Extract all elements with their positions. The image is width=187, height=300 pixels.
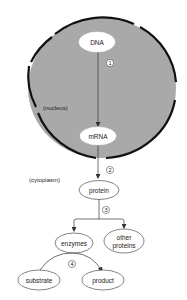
node-label: substrate	[26, 277, 53, 284]
step-2-label: 2	[108, 167, 111, 173]
node-product: product	[82, 270, 124, 290]
node-protein: protein	[79, 181, 119, 200]
node-enzymes: enzymes	[55, 233, 93, 253]
branch-left	[74, 219, 99, 231]
step-4-badge: 4	[68, 260, 75, 267]
step-4-label: 4	[70, 261, 73, 267]
arrow-protein-branch	[74, 200, 124, 232]
node-label: mRNA	[88, 133, 108, 140]
node-label-line2: proteins	[112, 242, 136, 250]
node-label: DNA	[90, 39, 104, 46]
step-3-label: 3	[104, 207, 107, 213]
node-substrate: substrate	[18, 270, 60, 290]
node-mrna: mRNA	[80, 127, 116, 145]
nucleus-label: (nucleus)	[43, 105, 68, 111]
step-2-badge: 2	[106, 166, 113, 173]
node-dna: DNA	[79, 32, 115, 52]
node-label-line1: other	[117, 234, 133, 241]
node-other-proteins: other proteins	[104, 229, 144, 253]
branch-right	[99, 219, 124, 228]
cytoplasm-label: (cytoplasm)	[29, 177, 60, 183]
step-3-badge: 3	[102, 206, 109, 213]
step-1-badge: 1	[106, 59, 113, 66]
node-label: enzymes	[61, 240, 88, 248]
gene-expression-diagram: (nucleus) 1 DNA mRNA 2 (cytoplasm) prote…	[0, 0, 187, 300]
node-label: product	[92, 277, 114, 285]
node-label: protein	[89, 187, 109, 195]
step-1-label: 1	[108, 60, 111, 66]
